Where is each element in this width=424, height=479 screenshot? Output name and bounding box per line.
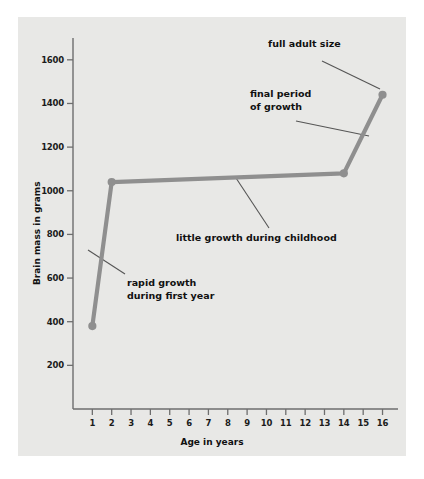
x-axis-title: Age in years <box>0 437 424 447</box>
y-tick-label: 200 <box>20 360 64 370</box>
data-point-marker <box>378 91 386 99</box>
x-tick-label: 2 <box>109 418 115 428</box>
chart-figure: 2004006008001000120014001600 12345678910… <box>0 0 424 479</box>
x-tick-label: 10 <box>261 418 272 428</box>
x-tick-label: 13 <box>319 418 330 428</box>
x-tick-label: 14 <box>338 418 349 428</box>
x-axis-ticks <box>92 409 382 415</box>
x-tick-label: 9 <box>244 418 250 428</box>
x-tick-label: 4 <box>148 418 154 428</box>
annotation-leader-line <box>322 61 380 89</box>
x-tick-label: 6 <box>186 418 192 428</box>
y-axis-ticks <box>67 60 73 366</box>
x-tick-label: 8 <box>225 418 231 428</box>
data-point-marker <box>340 169 348 177</box>
data-point-marker <box>108 178 116 186</box>
y-tick-label: 400 <box>20 317 64 327</box>
y-tick-label: 600 <box>20 273 64 283</box>
x-tick-label: 3 <box>128 418 134 428</box>
data-point-marker <box>88 322 96 330</box>
annotation-leader-line <box>88 250 125 274</box>
annotation-full-adult-size: full adult size <box>268 38 341 51</box>
y-tick-label: 1400 <box>20 98 64 108</box>
annotation-rapid-growth-during-first-year: rapid growth during first year <box>127 277 214 302</box>
annotation-little-growth-during-childhood: little growth during childhood <box>176 232 337 245</box>
y-tick-label: 800 <box>20 229 64 239</box>
y-tick-label: 1000 <box>20 186 64 196</box>
annotation-leader-line <box>236 178 269 228</box>
x-tick-label: 16 <box>377 418 388 428</box>
axes <box>73 38 398 409</box>
y-tick-label: 1200 <box>20 142 64 152</box>
x-tick-label: 12 <box>299 418 310 428</box>
x-tick-label: 5 <box>167 418 173 428</box>
annotation-leader-line <box>296 121 369 136</box>
x-tick-label: 1 <box>89 418 95 428</box>
x-tick-label: 11 <box>280 418 291 428</box>
x-tick-label: 15 <box>357 418 368 428</box>
x-tick-label: 7 <box>206 418 212 428</box>
y-tick-label: 1600 <box>20 55 64 65</box>
y-axis-title: Brain mass in grams <box>32 181 42 285</box>
annotation-final-period-of-growth: final period of growth <box>250 88 311 113</box>
